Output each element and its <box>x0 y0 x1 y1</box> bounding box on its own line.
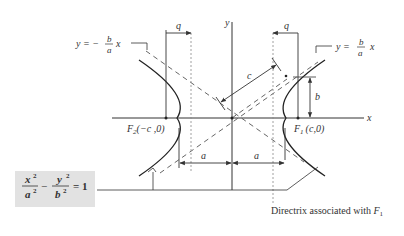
svg-text:2: 2 <box>33 187 37 195</box>
svg-text:x: x <box>115 38 121 49</box>
hyperbola-diagram: x y q q c b F2(−c ,0) F1(c,0) a a y <box>0 0 404 236</box>
svg-text:b: b <box>359 37 364 47</box>
focus-left-label: F2(−c ,0) <box>126 123 165 136</box>
directrix-caption: Directrix associated with F1 <box>271 205 384 218</box>
asymptote-parallel-guide <box>232 79 287 118</box>
svg-text:x: x <box>369 41 375 52</box>
c-label: c <box>247 70 252 81</box>
asymptote-negative <box>146 51 304 162</box>
focus-right-point <box>297 117 300 120</box>
svg-text:= 1: = 1 <box>73 180 88 192</box>
asymptote-right-leader <box>316 46 332 53</box>
a-right-label: a <box>254 150 259 161</box>
svg-text:a: a <box>107 45 112 55</box>
b-label: b <box>315 91 320 102</box>
svg-text:y = −: y = − <box>75 38 99 49</box>
y-axis-label: y <box>224 17 230 28</box>
focus-left-point <box>165 117 168 120</box>
q-right-label: q <box>284 20 289 31</box>
asymptote-point <box>285 75 288 78</box>
svg-text:2: 2 <box>63 187 67 195</box>
svg-text:b: b <box>55 188 61 200</box>
svg-text:y =: y = <box>335 41 350 52</box>
svg-text:−: − <box>41 180 47 192</box>
svg-text:a: a <box>358 48 363 58</box>
origin-point <box>231 117 234 120</box>
asymptote-left-leader <box>131 43 147 50</box>
asymptote-left-label: y = − b a x <box>75 34 121 55</box>
asymptote-right-label: y = b a x <box>335 37 375 58</box>
q-left-label: q <box>176 20 181 31</box>
a-left-label: a <box>201 150 206 161</box>
equation-leader-right <box>287 167 318 190</box>
equation: x 2 a 2 − y 2 b 2 = 1 <box>22 172 88 200</box>
x-axis-label: x <box>366 112 372 123</box>
svg-text:2: 2 <box>66 172 70 180</box>
c-tick-lower <box>216 97 225 110</box>
svg-text:2: 2 <box>33 172 37 180</box>
svg-text:x: x <box>24 173 31 185</box>
svg-text:a: a <box>25 188 31 200</box>
svg-text:b: b <box>107 34 112 44</box>
focus-right-label: F1(c,0) <box>293 123 325 136</box>
svg-text:y: y <box>55 173 62 185</box>
